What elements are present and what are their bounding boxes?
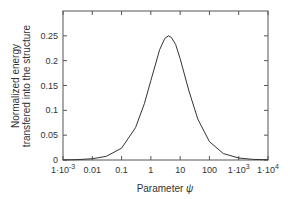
line-chart: 1·10-30.010.11101001·1031·10400.050.10.1…	[0, 0, 290, 199]
y-tick-label: 0.05	[40, 130, 58, 140]
x-axis-label: Parameter ψ	[137, 183, 194, 194]
x-tick-label: 1·104	[257, 163, 279, 175]
plot-area: 1·10-30.010.11101001·1031·10400.050.10.1…	[40, 11, 279, 175]
chart-canvas: 1·10-30.010.11101001·1031·10400.050.10.1…	[0, 0, 290, 199]
y-tick-label: 0	[53, 155, 58, 165]
y-axis-label-line2: transfered into the structure	[21, 24, 32, 147]
plot-frame	[63, 11, 268, 160]
y-tick-label: 0.2	[45, 56, 58, 66]
x-tick-label: 0.01	[84, 165, 102, 175]
series-line-energy	[63, 36, 268, 160]
x-tick-label: 10	[175, 165, 185, 175]
x-tick-label: 100	[202, 165, 217, 175]
y-axis-label-line1: Normalized energy	[10, 44, 21, 128]
x-tick-label: 0.1	[115, 165, 128, 175]
y-tick-label: 0.25	[40, 31, 58, 41]
x-tick-label: 1·103	[228, 163, 250, 175]
x-tick-label: 1	[148, 165, 153, 175]
y-tick-label: 0.15	[40, 81, 58, 91]
y-axis-label: Normalized energy transfered into the st…	[10, 24, 32, 147]
y-tick-label: 0.1	[45, 105, 58, 115]
